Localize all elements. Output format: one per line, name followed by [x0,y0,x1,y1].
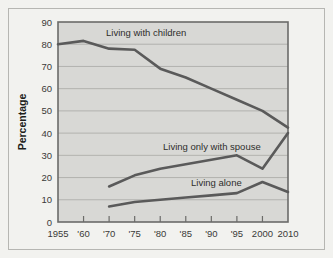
y-tick-label: 10 [41,194,52,205]
x-tick-label: '75 [128,228,140,239]
y-tick-label: 0 [47,217,52,228]
x-tick-label: 2010 [277,228,298,239]
x-tick-label: '80 [154,228,166,239]
x-tick-label: '60 [77,228,89,239]
x-tick-label: 1955 [47,228,68,239]
line-chart: 0102030405060708090 1955'60'70'75'80'85'… [0,0,333,258]
y-tick-label: 50 [41,105,52,116]
y-tick-label: 30 [41,150,52,161]
y-tick-label: 80 [41,39,52,50]
y-axis-title: Percentage [16,94,28,151]
plot-background [58,22,288,222]
y-tick-label: 60 [41,83,52,94]
series-label-living-with-children: Living with children [106,27,186,38]
x-axis-tick-labels: 1955'60'70'75'80'85'90'9520002010 [47,228,298,239]
x-tick-label: 2000 [252,228,273,239]
chart-figure: 0102030405060708090 1955'60'70'75'80'85'… [0,0,333,258]
x-tick-label: '95 [231,228,243,239]
x-tick-label: '90 [205,228,217,239]
x-tick-label: '70 [103,228,115,239]
y-tick-label: 40 [41,128,52,139]
series-label-living-only-with-spouse: Living only with spouse [163,141,261,152]
y-tick-label: 70 [41,61,52,72]
series-label-living-alone: Living alone [191,177,242,188]
y-tick-label: 90 [41,17,52,28]
y-axis-tick-labels: 0102030405060708090 [41,17,52,228]
x-tick-label: '85 [180,228,192,239]
y-tick-label: 20 [41,172,52,183]
